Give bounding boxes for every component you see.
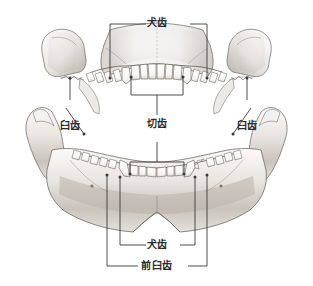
label-incisor: 切齿: [147, 118, 168, 129]
label-premolar: 前臼齿: [141, 260, 173, 271]
upper-right-canine-arrowhead: [206, 77, 209, 80]
lower-incisor-right-dot: [183, 173, 186, 176]
upper-left-canine-arrowhead: [109, 77, 112, 80]
dental-anatomy-figure: 犬齿 切齿 臼齿 臼齿 犬齿 前臼齿: [0, 0, 313, 286]
right-upper-molar-dot: [246, 77, 249, 80]
lower-incisor-left-dot: [129, 173, 132, 176]
right-pterygoid-plate: [214, 78, 234, 114]
label-upper-canine: 犬齿: [147, 17, 168, 28]
label-molar-left: 臼齿: [60, 120, 81, 131]
right-upper-molar-crowns: [231, 76, 252, 80]
upper-jaw-group: [42, 23, 272, 114]
left-upper-molar-dot: [69, 77, 72, 80]
left-zygomatic-shading: [48, 32, 78, 74]
premolar-left-dot: [106, 174, 109, 177]
left-pterygoid-plate: [79, 78, 99, 114]
right-zygomatic-shading: [235, 32, 265, 74]
upper-incisor-right-dot: [182, 76, 185, 79]
lower-right-canine-dot: [194, 176, 197, 179]
right-mental-foramen: [219, 184, 222, 187]
right-lower-molar-dot: [232, 133, 235, 136]
upper-incisor-bracket: [131, 77, 183, 95]
label-molar-right: 臼齿: [237, 120, 258, 131]
label-lower-canine: 犬齿: [147, 239, 168, 250]
premolar-right-dot: [206, 174, 209, 177]
upper-incisors: [131, 64, 182, 80]
left-mental-foramen: [90, 184, 93, 187]
lower-left-canine-dot: [119, 176, 122, 179]
upper-left-canine: [122, 67, 131, 84]
left-lower-molar-dot: [83, 133, 86, 136]
upper-incisor-left-dot: [130, 76, 133, 79]
